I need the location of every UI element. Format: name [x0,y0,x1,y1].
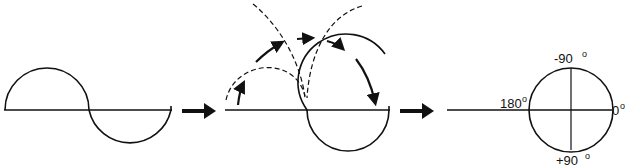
label-plus-90: +90 [556,153,578,167]
phase-labels: -90 o +90 o 180 o 0 o [500,49,625,167]
degree-sign: o [620,101,625,111]
positive-half-cycle [5,68,89,110]
rotation-arrow-3 [297,38,311,39]
right-arrow-1 [182,103,216,119]
wrapping-panel [225,4,390,151]
rotation-arrow-1 [238,84,243,105]
negative-half-cycle [307,106,389,151]
rotation-arrow-2 [256,43,281,62]
dashed-arc-original [226,68,305,100]
right-arrow-2 [400,103,434,119]
rotated-half-circle [298,34,385,110]
rotation-arrow-4 [327,41,342,48]
label-180: 180 [500,96,522,111]
label-minus-90: -90 [554,51,573,66]
degree-sign: o [585,151,590,161]
dashed-arc-right-tall [307,6,362,98]
sine-wave-panel [4,68,172,143]
phase-circle-panel [447,68,613,152]
phase-diagram: -90 o +90 o 180 o 0 o [0,0,631,167]
negative-half-cycle [89,106,171,143]
degree-sign: o [522,94,527,104]
degree-sign: o [582,49,587,59]
label-0: 0 [612,103,619,118]
rotation-arrow-5 [356,59,375,102]
